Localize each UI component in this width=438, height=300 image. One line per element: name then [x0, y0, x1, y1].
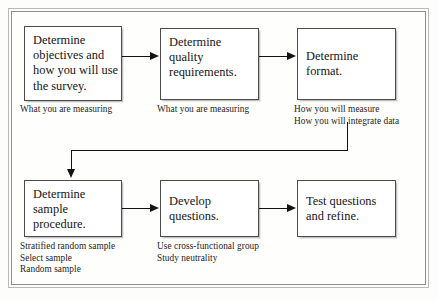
arrowhead-right-icon: [150, 52, 159, 60]
connector-line-vertical-left: [71, 150, 72, 170]
node-determine-quality: Determine quality requirements.: [160, 28, 259, 100]
node-determine-format: Determine format.: [297, 28, 396, 100]
caption-determine-objectives: What you are measuring: [20, 104, 160, 116]
connector-line-horizontal: [71, 150, 348, 151]
flowchart-page: Determine objectives and how you will us…: [0, 0, 438, 300]
node-test-questions-label: Test questions and refine.: [306, 187, 395, 224]
node-develop-questions-label: Develop questions.: [169, 187, 258, 224]
arrowhead-right-icon: [287, 204, 296, 212]
caption-determine-sample-procedure: Stratified random sample Select sample R…: [20, 241, 165, 276]
arrowhead-down-icon: [67, 169, 75, 178]
node-determine-objectives-label: Determine objectives and how you will us…: [33, 33, 121, 94]
node-determine-quality-label: Determine quality requirements.: [169, 35, 258, 81]
arrowhead-right-icon: [150, 204, 159, 212]
connector-line: [259, 56, 288, 57]
caption-determine-format: How you will measure How you will integr…: [294, 104, 436, 127]
connector-line: [259, 208, 288, 209]
connector-line-vertical-right: [347, 122, 348, 151]
connector-line: [122, 56, 151, 57]
node-test-questions: Test questions and refine.: [297, 180, 396, 237]
caption-develop-questions: Use cross-functional group Study neutral…: [157, 241, 307, 264]
arrowhead-right-icon: [287, 52, 296, 60]
node-determine-format-label: Determine format.: [306, 35, 395, 79]
caption-determine-quality: What you are measuring: [157, 104, 297, 116]
node-develop-questions: Develop questions.: [160, 180, 259, 237]
node-determine-sample-procedure-label: Determine sample procedure.: [33, 187, 121, 233]
connector-line: [122, 208, 151, 209]
node-determine-sample-procedure: Determine sample procedure.: [24, 180, 122, 237]
node-determine-objectives: Determine objectives and how you will us…: [24, 26, 122, 101]
